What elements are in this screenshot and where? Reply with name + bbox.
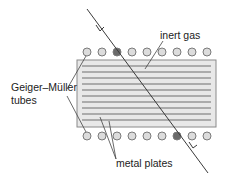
gm-tube: [128, 132, 136, 140]
gm-tube: [143, 48, 151, 56]
gm-tube: [173, 48, 181, 56]
detector-diagram: inert gas Geiger–Müller tubes metal plat…: [0, 0, 226, 184]
label-gm-tubes-line1: Geiger–Müller: [11, 81, 77, 93]
gm-tube: [98, 48, 106, 56]
gm-tube: [188, 48, 196, 56]
gas-chamber: [77, 60, 216, 127]
gm-tube: [98, 132, 106, 140]
gm-tube: [203, 132, 211, 140]
top-gm-tubes: [83, 48, 211, 56]
gm-tube: [188, 132, 196, 140]
gm-tube: [158, 48, 166, 56]
gm-tube-triggered: [173, 132, 181, 140]
gm-tube: [143, 132, 151, 140]
label-metal-plates: metal plates: [116, 157, 173, 169]
gm-tube: [203, 48, 211, 56]
gm-tube: [113, 132, 121, 140]
gm-tube: [83, 48, 91, 56]
gm-tube: [158, 132, 166, 140]
gm-tube: [128, 48, 136, 56]
label-inert-gas: inert gas: [160, 29, 200, 41]
bottom-gm-tubes: [83, 132, 211, 140]
gm-tube: [83, 132, 91, 140]
label-gm-tubes-line2: tubes: [11, 94, 37, 106]
arrow-head-icon: [189, 142, 197, 148]
